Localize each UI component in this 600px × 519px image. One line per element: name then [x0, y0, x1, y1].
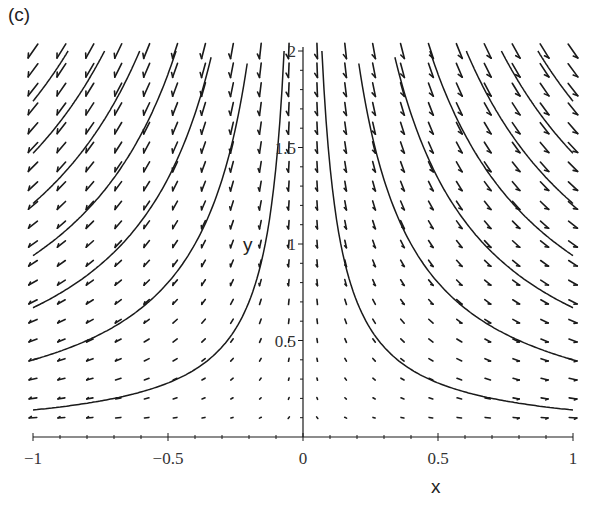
field-arrow: [456, 162, 462, 172]
field-arrow: [485, 260, 491, 266]
field-arrow: [144, 201, 150, 209]
field-arrow: [144, 359, 149, 361]
field-arrow: [29, 319, 37, 322]
field-arrow: [202, 398, 205, 399]
field-arrow: [144, 339, 149, 342]
field-arrow: [230, 221, 233, 229]
field-arrow: [86, 44, 94, 58]
field-arrow: [401, 201, 405, 210]
field-arrow: [373, 378, 375, 380]
field-arrow: [315, 63, 318, 77]
field-arrow: [258, 181, 261, 191]
field-arrow: [173, 417, 177, 418]
field-arrow: [115, 260, 121, 266]
field-arrow: [345, 398, 346, 399]
field-arrow: [315, 122, 317, 134]
field-arrow: [344, 181, 346, 191]
field-arrow: [457, 221, 463, 229]
field-arrow: [540, 182, 548, 191]
field-arrow: [456, 44, 462, 59]
field-arrow: [429, 300, 433, 305]
field-arrow: [345, 339, 347, 343]
field-arrow: [29, 221, 38, 228]
field-arrow: [200, 103, 205, 116]
field-arrow: [512, 123, 520, 134]
field-arrow: [569, 398, 577, 400]
field-arrow: [287, 181, 289, 191]
field-arrow: [373, 299, 376, 304]
field-arrow: [29, 339, 37, 342]
field-arrow: [569, 300, 577, 304]
field-arrow: [143, 63, 150, 77]
field-arrow: [344, 162, 346, 173]
field-arrow: [428, 142, 433, 153]
field-arrow: [287, 260, 289, 267]
field-arrow: [287, 161, 289, 172]
field-arrow: [202, 378, 205, 380]
field-arrow: [289, 319, 290, 324]
field-arrow: [86, 103, 94, 115]
field-arrow: [200, 63, 205, 77]
field-arrow: [115, 339, 121, 342]
field-arrow: [457, 260, 462, 266]
field-arrow: [456, 201, 462, 209]
field-arrow: [345, 299, 347, 304]
field-arrow: [144, 162, 150, 172]
solution-curve: [322, 51, 573, 410]
field-arrow: [29, 300, 37, 304]
field-arrow: [401, 299, 405, 304]
field-arrow: [373, 417, 375, 418]
axes: [33, 47, 573, 441]
field-arrow: [457, 319, 462, 323]
field-arrow: [372, 83, 375, 97]
solution-curve: [359, 64, 573, 360]
field-arrow: [512, 182, 519, 191]
field-arrow: [58, 417, 65, 418]
field-arrow: [373, 398, 375, 399]
field-arrow: [344, 122, 347, 134]
field-arrow: [484, 142, 491, 153]
field-arrow: [456, 103, 462, 115]
field-arrow: [115, 103, 122, 115]
field-arrow: [541, 339, 548, 342]
solution-curve: [538, 51, 573, 101]
field-arrow: [540, 201, 548, 209]
field-arrow: [202, 319, 205, 323]
field-arrow: [86, 123, 94, 134]
field-arrow: [173, 201, 178, 210]
field-arrow: [286, 83, 289, 97]
field-arrow: [401, 162, 405, 172]
field-arrow: [541, 260, 549, 266]
field-arrow: [259, 417, 261, 418]
solution-curve: [466, 51, 573, 204]
field-arrow: [28, 64, 38, 77]
field-arrow: [86, 64, 94, 78]
field-arrow: [315, 43, 318, 58]
field-arrow: [57, 103, 66, 115]
field-arrow: [143, 44, 150, 59]
field-arrow: [568, 142, 577, 152]
field-arrow: [230, 201, 234, 210]
field-arrow: [568, 182, 577, 190]
field-arrow: [429, 417, 433, 418]
field-arrow: [429, 359, 433, 361]
field-arrow: [541, 398, 548, 400]
field-arrow: [172, 181, 177, 190]
field-arrow: [541, 300, 549, 304]
field-arrow: [401, 398, 404, 399]
field-arrow: [373, 319, 376, 323]
field-arrow: [485, 378, 490, 380]
field-arrow: [345, 319, 347, 323]
y-tick-label: 1: [288, 235, 297, 254]
field-arrow: [202, 299, 206, 304]
field-arrow: [484, 182, 491, 191]
field-arrow: [569, 261, 578, 267]
y-axis-label: y: [243, 234, 253, 255]
field-arrow: [57, 142, 66, 152]
field-arrow: [288, 397, 289, 399]
field-arrow: [28, 103, 38, 115]
field-arrow: [144, 280, 149, 285]
field-arrow: [202, 417, 205, 418]
field-arrow: [401, 103, 405, 116]
field-arrow: [401, 280, 405, 286]
